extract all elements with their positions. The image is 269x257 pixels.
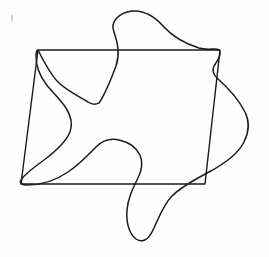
figure-canvas: Line drawing of a quadrilateral overlapp… xyxy=(0,0,269,257)
freeform-curve-outline xyxy=(20,11,248,241)
quadrilateral-outline xyxy=(21,50,220,184)
line-drawing-svg: Line drawing of a quadrilateral overlapp… xyxy=(0,0,269,257)
